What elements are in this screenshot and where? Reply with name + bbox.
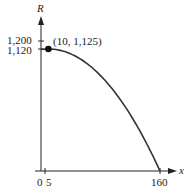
y-axis-arrow-icon (38, 16, 44, 25)
tick-label-1120: 1,120 (7, 45, 32, 56)
revenue-curve (41, 49, 160, 171)
tick-label-160: 160 (151, 177, 168, 188)
chart-canvas (0, 0, 190, 195)
max-point (45, 46, 52, 53)
y-axis-label: R (37, 3, 44, 14)
tick-label-0: 0 (37, 177, 43, 188)
x-axis-label: x (179, 165, 184, 176)
tick-label-5: 5 (46, 177, 52, 188)
point-annotation: (10, 1,125) (53, 36, 102, 47)
x-axis-arrow-icon (168, 168, 177, 174)
